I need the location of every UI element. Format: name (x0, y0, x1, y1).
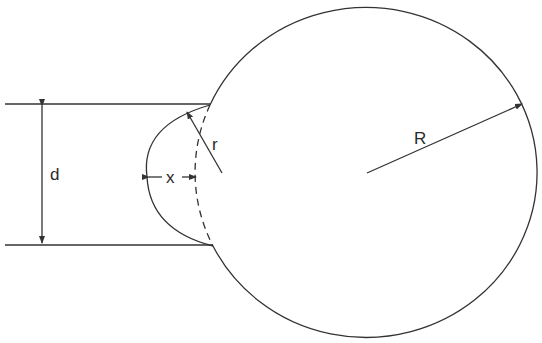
label-x: x (166, 168, 175, 187)
label-r: r (212, 135, 218, 154)
R-radius-line (367, 104, 522, 173)
large-circle-dashed-arc (195, 105, 213, 246)
sphere-channel-diagram: d x r R (0, 0, 542, 343)
large-circle-solid-arc (210, 7, 537, 337)
label-d: d (50, 165, 59, 184)
small-cap-arc (146, 105, 213, 246)
label-R: R (414, 129, 426, 148)
